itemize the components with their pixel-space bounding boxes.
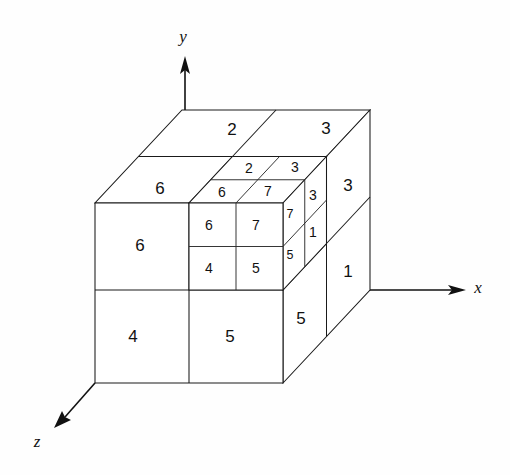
label-nested-front-bottom-right: 5 (252, 260, 260, 276)
label-front-upper-left: 6 (135, 236, 144, 255)
y-axis-label: y (177, 27, 187, 46)
label-nested-top-back-right: 3 (291, 159, 299, 175)
octree-figure: y x z (0, 0, 510, 475)
label-nested-front-top-left: 6 (205, 217, 213, 233)
x-axis-label: x (473, 278, 482, 297)
label-right-mid-lower: 1 (309, 224, 317, 240)
label-nested-top-back-left: 2 (245, 160, 253, 176)
label-nested-right-upper: 7 (287, 207, 294, 221)
label-right-outer-upper: 3 (343, 176, 352, 195)
label-front-lower-right: 5 (225, 327, 234, 346)
label-nested-right-lower: 5 (287, 248, 294, 262)
label-nested-front-bottom-left: 4 (205, 260, 213, 276)
label-right-mid-bottom: 5 (296, 309, 305, 328)
label-right-mid-upper: 3 (309, 187, 317, 203)
label-nested-top-front-right: 7 (264, 183, 272, 199)
z-axis-line (65, 383, 95, 417)
z-axis-label: z (33, 432, 41, 451)
label-right-outer-lower: 1 (343, 262, 352, 281)
label-top-back-left: 2 (227, 120, 236, 139)
label-nested-top-front-left: 6 (218, 184, 226, 200)
octree-diagram-canvas: y x z (0, 0, 510, 475)
label-top-front-left: 6 (155, 179, 164, 198)
label-top-back-right: 3 (321, 119, 330, 138)
label-front-lower-left: 4 (128, 327, 137, 346)
label-nested-front-top-right: 7 (252, 217, 260, 233)
